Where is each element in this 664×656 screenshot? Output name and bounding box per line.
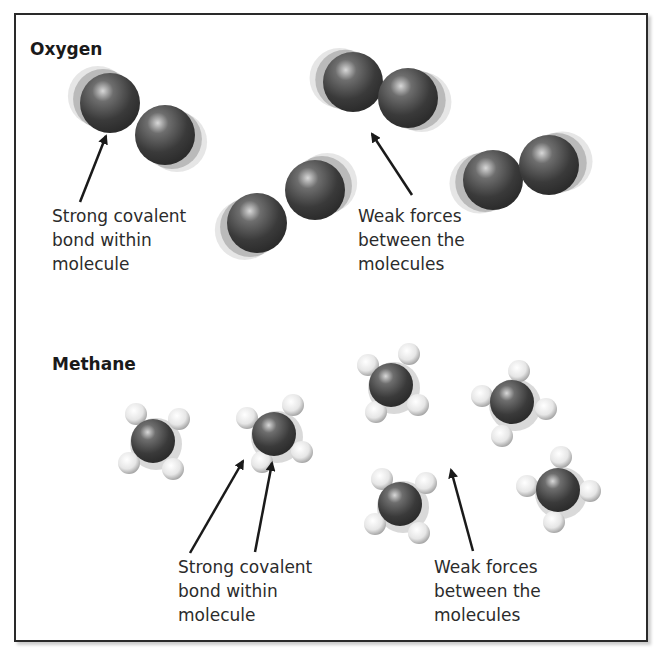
oxygen-weak-arrow: [372, 134, 412, 195]
carbon-atom: [490, 380, 534, 424]
methane-covalent-arrow-1: [190, 461, 243, 553]
methane-weak-arrow: [451, 470, 473, 551]
methane-weak-label-3: molecules: [434, 605, 520, 625]
methane-weak-label-2: between the: [434, 581, 541, 601]
hydrogen-atom: [282, 394, 304, 416]
methane-covalent-arrow-2: [255, 463, 272, 552]
hydrogen-atom: [471, 385, 493, 407]
hydrogen-atom: [508, 360, 530, 382]
methane-weak-label-1: Weak forces: [434, 557, 538, 577]
hydrogen-atom: [491, 425, 513, 447]
oxygen-atom: [135, 105, 195, 165]
methane-molecule: [471, 360, 557, 447]
carbon-atom: [378, 482, 422, 526]
oxygen-strong-label-2: bond within: [52, 230, 152, 250]
carbon-atom: [536, 468, 580, 512]
methane-molecule: [357, 343, 429, 423]
methane-strong-label-2: bond within: [178, 581, 278, 601]
hydrogen-atom: [415, 472, 437, 494]
oxygen-atom: [227, 193, 287, 253]
carbon-atom: [369, 363, 413, 407]
oxygen-atom: [378, 68, 438, 128]
oxygen-strong-label-1: Strong covalent: [52, 206, 187, 226]
hydrogen-atom: [162, 458, 184, 480]
oxygen-strong-label-3: molecule: [52, 254, 129, 274]
oxygen-weak-label-1: Weak forces: [358, 206, 462, 226]
oxygen-covalent-arrow: [80, 136, 106, 202]
methane-title: Methane: [52, 354, 136, 374]
methane-molecule: [516, 446, 601, 533]
hydrogen-atom: [408, 522, 430, 544]
hydrogen-atom: [407, 394, 429, 416]
methane-molecules: [118, 343, 601, 544]
oxygen-molecule: [449, 131, 592, 213]
hydrogen-atom: [550, 446, 572, 468]
molecule-diagram: Oxygen Strong covalent bond within molec…: [0, 0, 664, 656]
methane-strong-label-3: molecule: [178, 605, 255, 625]
oxygen-molecules: [68, 48, 593, 260]
oxygen-atom: [323, 52, 383, 112]
oxygen-atom: [285, 160, 345, 220]
carbon-atom: [131, 419, 175, 463]
oxygen-molecule: [68, 66, 207, 172]
oxygen-weak-label-2: between the: [358, 230, 465, 250]
oxygen-atom: [80, 73, 140, 133]
hydrogen-atom: [516, 475, 538, 497]
hydrogen-atom: [543, 511, 565, 533]
hydrogen-atom: [168, 408, 190, 430]
oxygen-weak-label-3: molecules: [358, 254, 444, 274]
oxygen-atom: [463, 150, 523, 210]
carbon-atom: [252, 412, 296, 456]
methane-molecule: [236, 394, 313, 473]
methane-strong-label-1: Strong covalent: [178, 557, 313, 577]
oxygen-atom: [519, 135, 579, 195]
methane-molecule: [364, 468, 437, 544]
hydrogen-atom: [291, 441, 313, 463]
hydrogen-atom: [535, 398, 557, 420]
oxygen-molecule: [215, 153, 357, 260]
hydrogen-atom: [398, 343, 420, 365]
oxygen-molecule: [310, 48, 452, 132]
methane-molecule: [118, 403, 190, 480]
oxygen-title: Oxygen: [30, 39, 102, 59]
hydrogen-atom: [579, 480, 601, 502]
